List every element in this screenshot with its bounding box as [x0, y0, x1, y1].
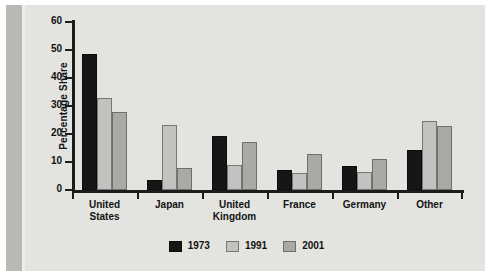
bar[interactable] [82, 54, 97, 190]
legend: 197319912001 [0, 240, 493, 252]
x-tick-mark [267, 190, 269, 199]
left-edge-band [6, 5, 22, 271]
bar-group [332, 22, 397, 190]
x-axis-label-line: Other [397, 199, 462, 211]
x-axis-label: Japan [137, 199, 202, 223]
bar-group [267, 22, 332, 190]
legend-label: 1991 [245, 240, 267, 252]
figure: Percentage Share 0102030405060 UnitedSta… [0, 0, 493, 280]
x-axis-label: Germany [332, 199, 397, 223]
bar[interactable] [227, 165, 242, 190]
y-tick-mark [65, 161, 72, 163]
plot-area: Percentage Share 0102030405060 [72, 22, 462, 190]
bar[interactable] [147, 180, 162, 190]
x-tick-mark [332, 190, 334, 199]
x-axis-label-line: Germany [332, 199, 397, 211]
x-tick-mark [397, 190, 399, 199]
x-axis-label-line: United [72, 199, 137, 211]
y-tick-label: 0 [56, 183, 62, 195]
bar-group [202, 22, 267, 190]
y-tick-label: 20 [51, 127, 62, 139]
x-tick-mark [461, 190, 463, 199]
y-tick-label: 50 [51, 43, 62, 55]
legend-item[interactable]: 2001 [283, 240, 324, 252]
legend-label: 2001 [302, 240, 324, 252]
bar-group [72, 22, 137, 190]
x-axis-label-line: France [267, 199, 332, 211]
legend-swatch [226, 241, 239, 252]
y-tick-mark [65, 189, 72, 191]
y-tick-label: 60 [51, 15, 62, 27]
y-tick-mark [65, 21, 72, 23]
bar[interactable] [97, 98, 112, 190]
legend-label: 1973 [188, 240, 210, 252]
x-axis-label: UnitedKingdom [202, 199, 267, 223]
y-tick-label: 40 [51, 71, 62, 83]
bar[interactable] [407, 150, 422, 190]
x-axis-label: UnitedStates [72, 199, 137, 223]
x-axis-label-line: United [202, 199, 267, 211]
bar[interactable] [177, 168, 192, 190]
bar-group [397, 22, 462, 190]
y-tick-mark [65, 77, 72, 79]
bar[interactable] [307, 154, 322, 190]
legend-swatch [283, 241, 296, 252]
bar[interactable] [162, 125, 177, 190]
bar[interactable] [112, 112, 127, 190]
bar-group [137, 22, 202, 190]
y-tick-label: 30 [51, 99, 62, 111]
bar[interactable] [292, 173, 307, 190]
bar[interactable] [212, 136, 227, 190]
y-tick-label: 10 [51, 155, 62, 167]
x-axis-label: Other [397, 199, 462, 223]
x-axis-label-line: Kingdom [202, 211, 267, 223]
x-tick-mark [202, 190, 204, 199]
x-tick-mark [72, 190, 74, 199]
legend-item[interactable]: 1991 [226, 240, 267, 252]
y-tick-mark [65, 49, 72, 51]
bar[interactable] [277, 170, 292, 190]
x-axis-label: France [267, 199, 332, 223]
left-band-highlight [22, 5, 25, 271]
bar[interactable] [437, 126, 452, 190]
legend-swatch [169, 241, 182, 252]
legend-item[interactable]: 1973 [169, 240, 210, 252]
x-axis-labels: UnitedStatesJapanUnitedKingdomFranceGerm… [72, 199, 462, 223]
y-tick-mark [65, 105, 72, 107]
bar[interactable] [422, 121, 437, 190]
bar[interactable] [242, 142, 257, 190]
x-tick-mark [137, 190, 139, 199]
x-axis-label-line: States [72, 211, 137, 223]
bar[interactable] [372, 159, 387, 190]
bar[interactable] [342, 166, 357, 190]
x-axis-label-line: Japan [137, 199, 202, 211]
y-tick-mark [65, 133, 72, 135]
bar-groups [72, 22, 462, 190]
bar[interactable] [357, 172, 372, 190]
